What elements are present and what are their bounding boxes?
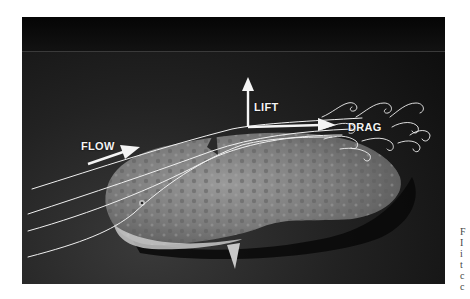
flounder-photo: FLOW LIFT DRAG xyxy=(22,17,445,284)
caption-char: t xyxy=(460,259,470,270)
caption-char: i xyxy=(460,248,470,259)
caption-char: c xyxy=(460,281,470,292)
caption-char: c xyxy=(460,270,470,281)
caption-fragment: F I i t c c xyxy=(460,226,470,292)
lift-label: LIFT xyxy=(254,101,278,113)
drag-label: DRAG xyxy=(348,121,382,133)
flow-label: FLOW xyxy=(81,140,115,152)
caption-char: F xyxy=(460,226,470,237)
caption-char: I xyxy=(460,237,470,248)
drag-arrow-icon xyxy=(248,118,336,131)
lift-arrow-icon xyxy=(242,77,254,127)
